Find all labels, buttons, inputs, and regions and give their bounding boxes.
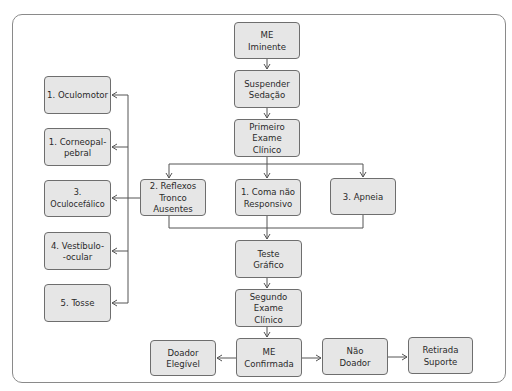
node-teste-grafico: Teste Gráfico (235, 240, 302, 278)
node-doador-elegivel: Doador Elegível (150, 340, 216, 376)
node-me-iminente: ME Iminente (234, 22, 300, 59)
node-retirada-suporte: Retirada Suporte (408, 337, 473, 374)
node-reflexos-tronco-ausentes: 2. Reflexos Tronco Ausentes (140, 179, 206, 216)
node-me-confirmada: ME Confirmada (236, 338, 302, 377)
node-vestibulo-ocular: 4. Vestíbulo- -ocular (44, 232, 111, 270)
node-oculocefalico: 3. Oculocefálico (44, 180, 111, 217)
node-primeiro-exame-clinico: Primeiro Exame Clínico (234, 119, 300, 157)
node-apneia: 3. Apneia (330, 178, 396, 215)
node-suspender-sedacao: Suspender Sedação (234, 70, 300, 108)
node-nao-doador: Não Doador (322, 338, 388, 375)
node-segundo-exame-clinico: Segundo Exame Clínico (235, 289, 302, 327)
node-coma-nao-responsivo: 1. Coma não Responsivo (235, 179, 301, 216)
node-oculomotor: 1. Oculomotor (44, 76, 111, 114)
node-corneopalpebral: 1. Corneopal- pebral (44, 128, 111, 166)
node-tosse: 5. Tosse (44, 284, 111, 322)
